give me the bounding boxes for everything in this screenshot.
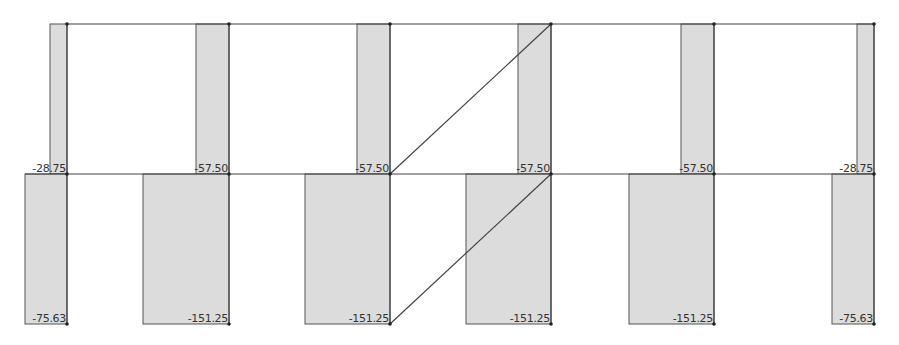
upper-story-bars xyxy=(50,24,874,174)
value-label: -57.50 xyxy=(194,162,228,175)
lower-bar-3 xyxy=(305,174,390,324)
upper-bar-5 xyxy=(681,24,714,174)
upper-value-labels: -28.75 -57.50 -57.50 -57.50 -57.50 -28.7… xyxy=(32,162,873,175)
node xyxy=(388,22,392,26)
value-label: -151.25 xyxy=(349,312,390,325)
node xyxy=(65,22,69,26)
value-label: -151.25 xyxy=(188,312,229,325)
value-label: -57.50 xyxy=(679,162,713,175)
upper-bar-3 xyxy=(357,24,390,174)
lower-bar-4 xyxy=(466,174,551,324)
lower-bar-2 xyxy=(143,174,229,324)
lower-bar-5 xyxy=(629,174,714,324)
node xyxy=(227,22,231,26)
upper-bar-1 xyxy=(50,24,67,174)
value-label: -151.25 xyxy=(673,312,714,325)
value-label: -151.25 xyxy=(510,312,551,325)
axial-force-diagram: -28.75 -57.50 -57.50 -57.50 -57.50 -28.7… xyxy=(0,0,899,345)
lower-story-bars xyxy=(25,174,874,324)
node xyxy=(872,22,876,26)
node xyxy=(712,22,716,26)
upper-bar-2 xyxy=(196,24,229,174)
upper-bar-4 xyxy=(518,24,551,174)
value-label: -75.63 xyxy=(32,312,66,325)
value-label: -28.75 xyxy=(839,162,873,175)
value-label: -57.50 xyxy=(516,162,550,175)
node xyxy=(549,22,553,26)
value-label: -75.63 xyxy=(839,312,873,325)
lower-bar-1 xyxy=(25,174,67,324)
value-label: -57.50 xyxy=(355,162,389,175)
lower-bar-6 xyxy=(832,174,874,324)
upper-bar-6 xyxy=(857,24,874,174)
value-label: -28.75 xyxy=(32,162,66,175)
